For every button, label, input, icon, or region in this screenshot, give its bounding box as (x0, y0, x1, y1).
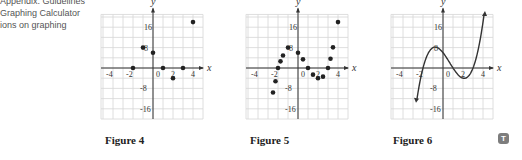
data-point (306, 66, 311, 71)
data-point (151, 50, 156, 55)
figure-5-plot: xy-4-2024168-8-16 (237, 0, 367, 125)
data-point (321, 74, 326, 79)
data-point (336, 20, 341, 25)
y-tick-label: 16 (434, 23, 442, 32)
data-points (271, 20, 341, 95)
grid (246, 14, 348, 119)
y-tick-label: 16 (289, 23, 297, 32)
data-point (328, 57, 333, 62)
figure-6-caption: Figure 6 (393, 134, 432, 146)
sidebar-note-line: Appendix: Guidelines (0, 0, 85, 7)
data-point (311, 72, 316, 77)
figure-5-caption: Figure 5 (250, 134, 289, 146)
x-tick-label: 0 (301, 70, 305, 79)
data-point (331, 45, 336, 50)
data-point (131, 66, 136, 71)
data-point (276, 66, 281, 71)
x-axis-label: x (351, 62, 357, 73)
x-tick-label: 4 (481, 70, 485, 79)
x-tick-label: 0 (156, 70, 160, 79)
data-point (273, 79, 278, 84)
grid (101, 14, 203, 119)
sidebar-note-line: Graphing Calculator (0, 7, 85, 19)
y-axis-label: y (440, 0, 446, 7)
figure-6-plot: xy-4-2024168-8-16 (382, 0, 512, 125)
data-point (286, 45, 291, 50)
x-tick-label: -4 (251, 70, 258, 79)
y-tick-label: -8 (140, 84, 147, 93)
y-tick-label: -8 (430, 84, 437, 93)
x-tick-label: 0 (446, 70, 450, 79)
figure-4-plot: xy-4-2024168-8-16 (92, 0, 222, 125)
data-point (316, 76, 321, 81)
x-tick-label: -4 (396, 70, 403, 79)
figure-4-caption: Figure 4 (105, 134, 144, 146)
data-point (301, 57, 306, 62)
data-point (278, 59, 283, 64)
data-point (171, 76, 176, 81)
y-tick-label: 16 (144, 23, 152, 32)
x-axis-label: x (206, 62, 212, 73)
x-tick-label: -4 (106, 70, 113, 79)
x-tick-label: -2 (126, 70, 133, 79)
x-tick-label: 4 (336, 70, 340, 79)
y-axis-arrow-icon (296, 7, 300, 12)
data-point (191, 20, 196, 25)
data-point (281, 53, 286, 58)
t-badge-icon[interactable]: T (498, 133, 509, 144)
y-axis-label: y (295, 0, 301, 7)
curve-arrow-icon (482, 11, 487, 16)
x-tick-label: 4 (191, 70, 195, 79)
data-point (181, 66, 186, 71)
x-axis-label: x (496, 62, 502, 73)
y-tick-label: -16 (430, 105, 441, 114)
sidebar-note-line: ions on graphing (0, 19, 85, 31)
y-axis-arrow-icon (441, 7, 445, 12)
grid (391, 14, 493, 119)
data-point (141, 45, 146, 50)
data-point (296, 50, 301, 55)
data-point (161, 66, 166, 71)
y-tick-label: -16 (140, 105, 151, 114)
sidebar-note: Appendix: Guidelines Graphing Calculator… (0, 0, 85, 31)
y-axis-label: y (150, 0, 156, 7)
y-tick-label: -8 (285, 84, 292, 93)
data-point (271, 90, 276, 95)
y-axis-arrow-icon (151, 7, 155, 12)
y-tick-label: -16 (285, 105, 296, 114)
x-tick-label: -2 (271, 70, 278, 79)
data-point (326, 66, 331, 71)
